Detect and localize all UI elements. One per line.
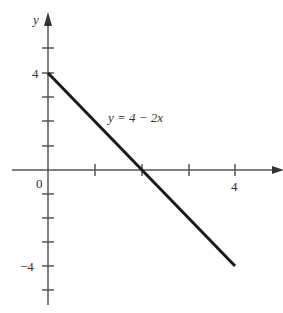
x-axis-arrow-icon — [272, 166, 283, 174]
line-graph: y 4 −4 0 4 y = 4 − 2x — [0, 0, 283, 313]
origin-label: 0 — [36, 176, 43, 191]
x-tick-label-4: 4 — [231, 179, 238, 194]
equation-label: y = 4 − 2x — [106, 110, 163, 125]
y-axis-label: y — [31, 12, 39, 27]
y-tick-label-neg4: −4 — [20, 259, 34, 274]
y-axis-arrow-icon — [44, 12, 52, 26]
y-tick-label-4: 4 — [32, 66, 39, 81]
